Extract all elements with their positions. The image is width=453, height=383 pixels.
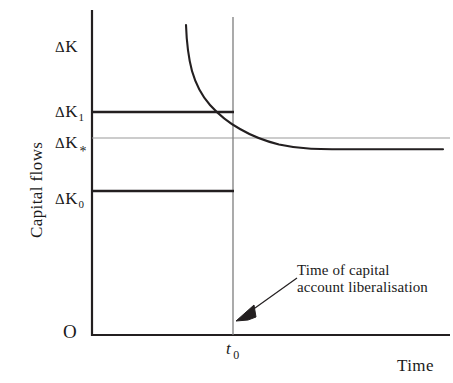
y-tick-label-delta-k-star: ΔK*	[55, 134, 87, 159]
delta-glyph: Δ	[55, 39, 65, 55]
subscript-zero: 0	[78, 198, 85, 210]
capital-flows-figure: Capital flows ΔK ΔK1 ΔK* ΔK0 O t0 Time T…	[0, 0, 453, 383]
k-glyph: K	[65, 133, 78, 152]
x-axis-title: Time	[397, 357, 434, 374]
subscript-zero: 0	[231, 348, 240, 362]
y-tick-label-delta-k: ΔK	[55, 38, 78, 55]
y-tick-label-delta-k-one: ΔK1	[55, 103, 84, 123]
capital-inflow-curve	[186, 25, 443, 149]
delta-glyph: Δ	[55, 135, 65, 151]
subscript-star: *	[78, 144, 87, 159]
k-glyph: K	[65, 37, 78, 56]
y-tick-label-delta-k-zero: ΔK0	[55, 190, 84, 210]
k-glyph: K	[65, 189, 78, 208]
annotation-line-1: Time of capital	[297, 262, 428, 279]
delta-glyph: Δ	[55, 191, 65, 207]
liberalisation-annotation: Time of capital account liberalisation	[297, 262, 428, 296]
subscript-one: 1	[78, 111, 85, 123]
y-axis-title: Capital flows	[28, 142, 45, 238]
annotation-arrow-head	[236, 305, 256, 321]
delta-glyph: Δ	[55, 104, 65, 120]
k-glyph: K	[65, 102, 78, 121]
origin-label: O	[63, 322, 77, 341]
annotation-arrow-shaft	[248, 278, 297, 313]
annotation-line-2: account liberalisation	[297, 279, 428, 296]
x-tick-label-t-zero: t0	[226, 340, 239, 361]
